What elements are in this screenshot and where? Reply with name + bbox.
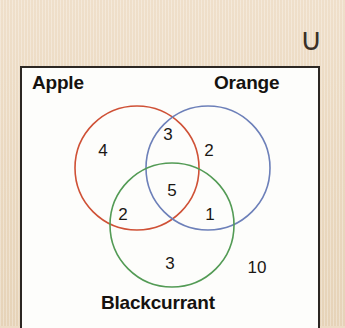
region-count-apple-only: 4: [90, 141, 116, 161]
region-count-all-three: 5: [159, 181, 185, 201]
set-label-orange: Orange: [214, 72, 279, 94]
universal-set-symbol: ∪: [296, 20, 326, 58]
region-count-apple-orange: 3: [155, 125, 181, 145]
set-label-blackcurrant: Blackcurrant: [101, 292, 215, 314]
region-count-blackcurrant-only: 3: [157, 254, 183, 274]
set-label-apple: Apple: [32, 72, 84, 94]
region-count-apple-blackcurrant: 2: [110, 205, 136, 225]
region-count-outside: 10: [242, 258, 272, 278]
region-count-orange-blackcurrant: 1: [197, 205, 223, 225]
region-count-orange-only: 2: [196, 141, 222, 161]
